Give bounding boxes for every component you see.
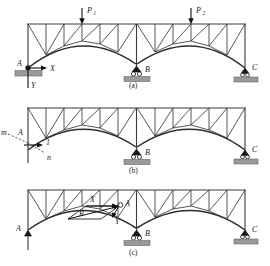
figure-svg: P 1 P 2 A X Y B [0, 0, 270, 266]
axis-x-label: X [49, 64, 56, 73]
caption-b: (b) [129, 166, 138, 175]
support-c-label: C [252, 63, 258, 72]
reaction-arrowhead-1 [37, 142, 43, 147]
support-a-panel-c: A [15, 224, 32, 250]
caption-a: (a) [129, 81, 138, 90]
axis-y-label: Y [31, 81, 37, 90]
load-p2: P 2 [188, 6, 205, 25]
support-b-panel-a: B [124, 65, 150, 82]
support-b-panel-c: B [124, 229, 150, 246]
support-a-label: A [16, 59, 22, 68]
roller-wheel-c3-1 [241, 235, 245, 239]
support-b-label-c: B [145, 229, 150, 238]
reaction-label-1: 1 [46, 138, 50, 147]
arch-right-b [137, 129, 245, 150]
load-p1-sub: 1 [94, 10, 97, 16]
load-p1-label: P [86, 6, 92, 15]
roller-wheel-c-1 [241, 73, 245, 77]
load-p1: P 1 [79, 6, 96, 25]
support-b-panel-b: B [124, 148, 150, 165]
roller-wheel-c3-2 [246, 235, 250, 239]
web-right-b [137, 108, 245, 138]
roller-wheel-b-1 [131, 72, 135, 76]
ground-hatch-c3 [234, 239, 258, 244]
load-p2-label: P [195, 6, 201, 15]
panel-a: P 1 P 2 A X Y B [15, 6, 258, 90]
support-c-panel-a: C [234, 63, 258, 82]
caption-c: (c) [129, 248, 138, 257]
support-b-label-b: B [145, 148, 150, 157]
support-c-label-b: C [252, 145, 258, 154]
pin-triangle-a-c [25, 230, 32, 236]
component-x-label: X [89, 195, 96, 204]
ground-hatch-b2 [124, 160, 150, 165]
arch-right-c [137, 210, 245, 230]
web-right-c [137, 190, 245, 219]
point-a-node [118, 203, 123, 208]
ground-hatch-b3 [124, 241, 150, 246]
roller-frame-b3 [132, 230, 141, 236]
axis-x-arrowhead [41, 65, 47, 70]
resultant-label-r: R [78, 209, 84, 218]
roller-wheel-b-2 [137, 72, 141, 76]
roller-wheel-c-2 [246, 73, 250, 77]
support-c-panel-b: C [234, 145, 258, 164]
cut-label-m: m [1, 128, 7, 137]
roller-frame-b [132, 66, 141, 72]
roller-wheel-c2-2 [246, 155, 250, 159]
load-p2-sub: 2 [203, 10, 206, 16]
roller-wheel-c2-1 [241, 155, 245, 159]
cut-label-n: n [47, 153, 51, 162]
support-c-panel-c: C [234, 225, 258, 244]
roller-frame-c3 [241, 230, 249, 236]
point-a-label: A [124, 199, 130, 208]
roller-frame-c [241, 68, 249, 74]
support-a-label-c: A [15, 224, 21, 233]
web-left-a [28, 24, 136, 55]
support-b-label: B [145, 65, 150, 74]
support-a-panel-a: A X Y [15, 59, 56, 90]
support-a-label-b: A [17, 128, 23, 137]
roller-wheel-b2-2 [137, 155, 141, 159]
roller-wheel-b3-2 [137, 236, 141, 240]
web-left-b [28, 108, 136, 138]
ground-hatch-c [234, 77, 258, 82]
panel-b: m n A 1 B C (b) [1, 108, 258, 175]
web-right-a [137, 24, 245, 55]
arch-left-b [28, 129, 136, 150]
roller-frame-b2 [132, 149, 141, 155]
roller-wheel-b3-1 [131, 236, 135, 240]
panel-c: A R X Y A B [15, 190, 258, 257]
roller-frame-c2 [241, 150, 249, 156]
roller-wheel-b2-1 [131, 155, 135, 159]
truss-reaction-figure: P 1 P 2 A X Y B [0, 0, 270, 266]
ground-hatch-c2 [234, 159, 258, 164]
support-c-label-c: C [252, 225, 258, 234]
